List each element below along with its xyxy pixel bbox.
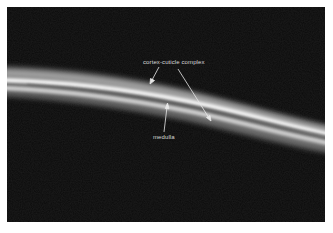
micrograph-image: cortex-cuticle complex medulla bbox=[7, 7, 325, 222]
hair-fiber-graphic bbox=[7, 7, 325, 222]
label-cortex-cuticle-complex: cortex-cuticle complex bbox=[143, 59, 205, 65]
label-medulla: medulla bbox=[153, 134, 175, 140]
